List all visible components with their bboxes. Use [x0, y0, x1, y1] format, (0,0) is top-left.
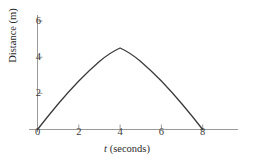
y-tick-label-6: 6 — [36, 16, 41, 27]
x-tick-label-8: 8 — [200, 127, 205, 138]
distance-curve — [38, 48, 203, 130]
x-axis-title: t (seconds) — [0, 143, 254, 154]
y-tick-label-2: 2 — [36, 88, 41, 99]
x-tick-label-6: 6 — [159, 127, 164, 138]
x-tick-label-2: 2 — [76, 127, 81, 138]
distance-time-chart: 0 2 4 6 8 2 4 6 t (seconds) Distance (m) — [0, 0, 254, 164]
x-tick-label-0: 0 — [35, 127, 40, 138]
y-tick-label-4: 4 — [36, 52, 41, 63]
x-axis-title-unit: (seconds) — [110, 143, 150, 154]
x-tick-label-4: 4 — [117, 127, 122, 138]
y-axis-title: Distance (m) — [7, 0, 18, 86]
x-axis-title-symbol: t — [104, 143, 107, 154]
